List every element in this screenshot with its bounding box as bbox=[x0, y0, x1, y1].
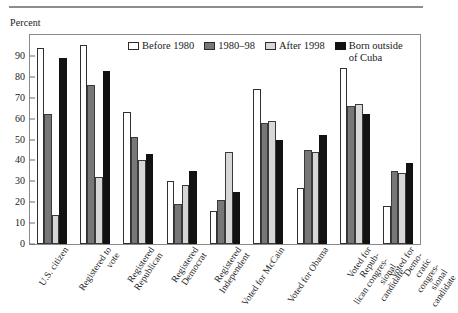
y-tick-label: 40 bbox=[15, 155, 30, 165]
legend-item: Born outside of Cuba bbox=[335, 40, 403, 63]
bar bbox=[340, 68, 348, 244]
y-tick-label: 80 bbox=[15, 72, 30, 82]
bar-group bbox=[383, 35, 413, 244]
bar bbox=[217, 200, 225, 244]
y-tick-label: 20 bbox=[15, 197, 30, 207]
bar bbox=[347, 106, 355, 244]
x-axis-label: Registered Republican bbox=[124, 245, 165, 292]
bar bbox=[52, 215, 60, 244]
bar-group bbox=[297, 35, 327, 244]
y-tick-label: 10 bbox=[15, 218, 30, 228]
bar-group bbox=[80, 35, 110, 244]
y-axis-caption: Percent bbox=[10, 17, 41, 28]
bar bbox=[210, 211, 218, 244]
legend-item: 1980–98 bbox=[204, 40, 255, 52]
bar bbox=[312, 152, 320, 244]
bar bbox=[182, 185, 190, 244]
bar bbox=[37, 48, 45, 244]
y-tick-label: 90 bbox=[15, 51, 30, 61]
y-tick-label: 30 bbox=[15, 176, 30, 186]
legend-swatch-icon bbox=[335, 42, 346, 50]
legend-item: After 1998 bbox=[265, 40, 325, 52]
bar bbox=[123, 112, 131, 244]
bar bbox=[304, 150, 312, 244]
bar bbox=[146, 154, 154, 244]
bar bbox=[268, 121, 276, 244]
legend-swatch-icon bbox=[128, 42, 139, 50]
bar bbox=[80, 45, 88, 244]
legend-label: Born outside of Cuba bbox=[349, 40, 403, 63]
bar bbox=[95, 177, 103, 244]
legend-label: After 1998 bbox=[279, 40, 325, 52]
legend-item: Before 1980 bbox=[128, 40, 194, 52]
y-tick-label: 70 bbox=[15, 93, 30, 103]
bar bbox=[406, 163, 414, 245]
header-rule bbox=[9, 6, 423, 8]
bar bbox=[253, 89, 261, 244]
bar bbox=[233, 192, 241, 244]
bar bbox=[363, 114, 371, 244]
y-tick-label: 50 bbox=[15, 135, 30, 145]
x-axis-label: Registered Independent bbox=[209, 245, 252, 295]
y-tick-label: 60 bbox=[15, 114, 30, 124]
bar-series-layer bbox=[30, 35, 420, 244]
chart-plot-area: 0102030405060708090 bbox=[29, 34, 421, 245]
bar bbox=[261, 123, 269, 244]
bar bbox=[391, 171, 399, 244]
bar bbox=[297, 188, 305, 244]
bar-group bbox=[37, 35, 67, 244]
bar bbox=[383, 206, 391, 244]
bar bbox=[131, 137, 139, 244]
bar bbox=[319, 135, 327, 244]
bar bbox=[44, 114, 52, 244]
bar bbox=[87, 85, 95, 244]
x-axis-label: Registered Democrat bbox=[169, 245, 208, 290]
bar-group bbox=[210, 35, 240, 244]
x-axis-label: Voted for Demo- cratic congres- sional c… bbox=[388, 245, 458, 309]
bar bbox=[59, 58, 67, 244]
bar bbox=[167, 181, 175, 244]
bar bbox=[174, 204, 182, 244]
bar-group bbox=[253, 35, 283, 244]
chart-legend: Before 19801980–98After 1998Born outside… bbox=[128, 40, 403, 63]
bar bbox=[355, 104, 363, 244]
bar-group bbox=[123, 35, 153, 244]
legend-label: Before 1980 bbox=[142, 40, 194, 52]
bar-group bbox=[340, 35, 370, 244]
x-axis-label: Registered to vote bbox=[77, 245, 122, 298]
x-axis-label: Voted for Obama bbox=[285, 245, 330, 305]
x-axis-label: U.S. citizen bbox=[37, 245, 70, 288]
bar bbox=[276, 140, 284, 245]
bar bbox=[103, 71, 111, 244]
bar bbox=[225, 152, 233, 244]
legend-swatch-icon bbox=[265, 42, 276, 50]
legend-label: 1980–98 bbox=[218, 40, 255, 52]
bar bbox=[189, 171, 197, 244]
bar-group bbox=[167, 35, 197, 244]
legend-swatch-icon bbox=[204, 42, 215, 50]
x-axis-labels: U.S. citizenRegistered to voteRegistered… bbox=[29, 245, 421, 313]
bar bbox=[398, 173, 406, 244]
bar bbox=[138, 160, 146, 244]
